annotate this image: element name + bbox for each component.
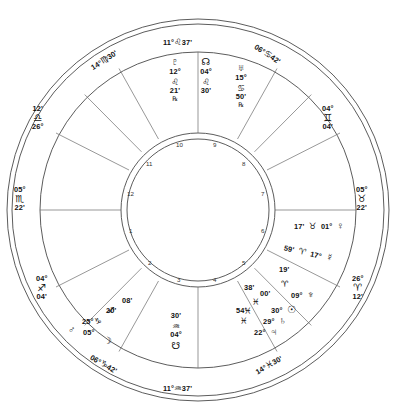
house-number-7: 7 bbox=[261, 190, 264, 197]
venus-glyph: ♀ bbox=[337, 220, 345, 231]
cusp-7-dsc-label: 05° ♉ 22' bbox=[356, 186, 367, 211]
planet-neptune: 19' bbox=[271, 266, 289, 273]
house-number-8: 8 bbox=[242, 160, 245, 167]
planet-sun-min: 00' bbox=[260, 283, 270, 299]
house-number-2: 2 bbox=[148, 259, 151, 266]
cusp-8-label: 04° ♊ 04' bbox=[322, 105, 333, 130]
taurus-glyph: ♉ bbox=[309, 221, 317, 231]
house-number-1: 1 bbox=[129, 227, 132, 234]
saturn-glyph: ♄ bbox=[279, 315, 287, 326]
planet-moon-sign: ♑ bbox=[94, 311, 102, 327]
leo-glyph: ♌ bbox=[174, 37, 182, 47]
cusp-1-asc-label: 05° ♏ 22' bbox=[14, 186, 25, 211]
house-number-4: 4 bbox=[213, 276, 216, 283]
retrograde-symbol: ℞ bbox=[230, 101, 252, 109]
house-number-5: 5 bbox=[242, 259, 245, 266]
house-number-11: 11 bbox=[146, 160, 152, 167]
aquarius-glyph: ♒ bbox=[174, 383, 182, 393]
neptune-glyph: ♆ bbox=[307, 289, 315, 300]
planet-neptune-pos: 09° ♆ bbox=[291, 285, 314, 301]
sun-glyph: ☉ bbox=[287, 304, 296, 315]
planet-venus: 17' ♉ 01° ♀ bbox=[294, 216, 344, 232]
house-number-9: 9 bbox=[213, 141, 216, 148]
planet-mars-glyph-wrap: ♂ bbox=[68, 320, 76, 336]
cusp-2-label: 04° ♐ 04' bbox=[36, 275, 47, 300]
planet-jupiter-sign: ♓ bbox=[240, 311, 248, 327]
aries-glyph: ♈ bbox=[297, 246, 307, 257]
planet-jupiter: 22° ♃ bbox=[254, 322, 277, 338]
cusp-10-mc-label: 11°♌37' bbox=[163, 32, 192, 48]
house-ring-outer bbox=[121, 133, 275, 287]
planet-moon-glyph-wrap: ☽ bbox=[103, 331, 112, 347]
pisces-glyph: ♓ bbox=[252, 297, 260, 307]
planet-mars-min: 08' bbox=[122, 290, 132, 306]
house-number-3: 3 bbox=[177, 276, 180, 283]
planet-north-node: ☊ 04° ♌ 30' bbox=[195, 56, 217, 95]
retrograde-symbol: ℞ bbox=[164, 95, 186, 103]
pisces-glyph: ♓ bbox=[240, 316, 248, 326]
planet-sun-sign: ♓ bbox=[252, 292, 260, 308]
planet-uranus: ♅ 15° ♋ 50' ℞ bbox=[230, 62, 252, 109]
planet-mars: 25° bbox=[82, 311, 93, 327]
planet-south-node: 30' ♒ 04° ☋ bbox=[165, 312, 187, 351]
planet-neptune-sign: ♈ bbox=[281, 274, 289, 290]
house-number-12: 12 bbox=[127, 190, 134, 197]
jupiter-glyph: ♃ bbox=[270, 326, 278, 337]
planet-mars-sign: ♐ bbox=[107, 300, 115, 316]
astrology-chart-wheel: 11°♌37' 14°♍30' 06°♋42' 04° ♊ 04' 05° ♉ … bbox=[0, 0, 396, 418]
sagittarius-glyph: ♐ bbox=[107, 305, 115, 315]
south-node-glyph: ☋ bbox=[165, 340, 187, 352]
cusp-4-ic-label: 11°♒37' bbox=[163, 378, 192, 394]
capricorn-glyph: ♑ bbox=[94, 316, 102, 326]
moon-glyph: ☽ bbox=[103, 335, 112, 346]
house-number-6: 6 bbox=[261, 227, 264, 234]
mars-glyph: ♂ bbox=[68, 324, 76, 335]
cusp-6-label: 26° ♈ 12' bbox=[352, 275, 363, 300]
planet-pluto: ♇ 12° ♌ 21' ℞ bbox=[164, 56, 186, 103]
aries-glyph: ♈ bbox=[281, 279, 289, 289]
house-number-10: 10 bbox=[176, 141, 183, 148]
cusp-12-label: 12' ♎ 26° bbox=[32, 105, 43, 130]
